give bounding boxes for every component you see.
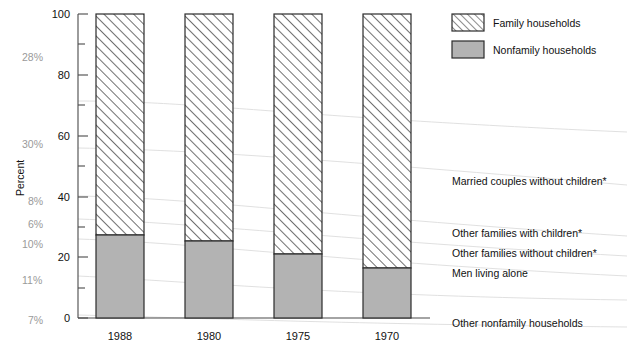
bar-family-1975 — [274, 14, 322, 254]
bar-group-1988 — [96, 14, 144, 318]
pct-label-8: 8% — [28, 195, 43, 207]
y-tick-label-60: 60 — [40, 130, 70, 142]
x-tick-label-1975: 1975 — [268, 330, 328, 342]
bar-group-1970 — [363, 14, 411, 318]
y-tick-label-40: 40 — [40, 191, 70, 203]
leader-lines — [78, 101, 627, 327]
bar-nonfamily-1975 — [274, 254, 322, 318]
x-tick-label-1988: 1988 — [90, 330, 150, 342]
y-tick-label-100: 100 — [40, 8, 70, 20]
bar-family-1988 — [96, 14, 144, 235]
bar-family-1970 — [363, 14, 411, 268]
right-label-other-families-with-children: Other families with children* — [452, 227, 582, 239]
legend-swatch-family — [452, 14, 484, 31]
bar-nonfamily-1970 — [363, 268, 411, 318]
y-tick-label-20: 20 — [40, 251, 70, 263]
bar-family-1980 — [185, 14, 233, 241]
x-tick-label-1970: 1970 — [357, 330, 417, 342]
legend-label-family: Family households — [493, 17, 581, 29]
y-axis-title: Percent — [14, 160, 26, 196]
bar-group-1980 — [185, 14, 233, 318]
pct-label-7: 7% — [28, 314, 43, 326]
pct-label-10: 10% — [22, 238, 43, 250]
chart-root: 100 80 60 40 20 0 Percent 28% 30% 8% 6% … — [0, 0, 627, 348]
y-axis — [78, 14, 88, 318]
pct-label-11: 11% — [22, 274, 42, 286]
right-label-other-nonfamily: Other nonfamily households — [452, 317, 583, 329]
right-label-other-families-without-children: Other families without children* — [452, 247, 597, 259]
bar-group-1975 — [274, 14, 322, 318]
y-tick-label-80: 80 — [40, 69, 70, 81]
pct-label-30: 30% — [22, 138, 43, 150]
pct-label-6: 6% — [28, 218, 43, 230]
bar-nonfamily-1988 — [96, 235, 144, 318]
right-label-men-living-alone: Men living alone — [452, 267, 528, 279]
bar-nonfamily-1980 — [185, 241, 233, 318]
right-label-married-couples: Married couples without children* — [452, 175, 607, 187]
y-tick-label-0: 0 — [40, 312, 70, 324]
legend-swatch-nonfamily — [452, 41, 484, 58]
legend-label-nonfamily: Nonfamily households — [493, 44, 596, 56]
pct-label-28: 28% — [22, 51, 43, 63]
x-tick-label-1980: 1980 — [179, 330, 239, 342]
